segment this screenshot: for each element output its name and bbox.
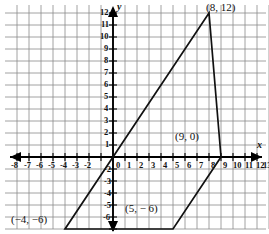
coordinate-plot-svg (0, 0, 269, 234)
y-tick-label-6: 6 (104, 80, 108, 89)
y-tick-label-3: 3 (104, 116, 108, 125)
y-tick-label-7: 7 (104, 68, 108, 77)
x-tick-label--5: -5 (48, 161, 55, 170)
x-tick-label--8: -8 (11, 161, 18, 170)
right-vertex-label: (9, 0) (175, 131, 199, 142)
x-tick-label--6: -6 (36, 161, 43, 170)
y-tick-label-10: 10 (100, 32, 109, 41)
x-tick-label--4: -4 (60, 161, 67, 170)
x-tick-label-4: 4 (163, 161, 167, 170)
x-tick-label-3: 3 (151, 161, 155, 170)
axis-arrowheads (10, 6, 262, 232)
y-tick-label--2: -2 (104, 165, 111, 174)
x-tick-label-10: 10 (233, 161, 242, 170)
bottom-left-vertex-label: (−4, −6) (11, 214, 47, 225)
apex-label: (8, 12) (206, 2, 235, 13)
x-tick-label--2: -2 (84, 161, 91, 170)
y-tick-label-9: 9 (104, 44, 108, 53)
bottom-right-vertex-label: (5, − 6) (125, 203, 158, 214)
x-tick-label-9: 9 (223, 161, 227, 170)
y-tick-label-8: 8 (104, 56, 108, 65)
y-tick-label-12: 12 (100, 8, 109, 17)
coordinate-plane-figure: -8 -7 -6 -5 -4 -3 -2 0 1 2 3 4 5 6 7 8 9… (0, 0, 269, 234)
y-tick-label-5: 5 (104, 92, 108, 101)
x-tick-label-11: 11 (245, 161, 253, 170)
y-tick-label-2: 2 (104, 128, 108, 137)
x-tick-label-1: 1 (127, 161, 131, 170)
y-axis-label: y (117, 2, 121, 12)
grid-lines (5, 5, 269, 229)
axes (10, 8, 262, 231)
y-tick-label-11: 11 (101, 20, 109, 29)
x-tick-label-2: 2 (139, 161, 143, 170)
x-tick-label-8: 8 (211, 161, 215, 170)
x-tick-label-6: 6 (187, 161, 191, 170)
y-tick-label-4: 4 (104, 104, 108, 113)
x-tick-label--3: -3 (72, 161, 79, 170)
y-tick-label--3: -3 (104, 177, 111, 186)
y-tick-label--4: -4 (104, 189, 111, 198)
y-axis-arrow-down (108, 221, 118, 232)
x-axis-label: x (257, 140, 262, 150)
x-tick-label--7: -7 (24, 161, 31, 170)
x-tick-label-5: 5 (175, 161, 179, 170)
y-tick-label--5: -5 (104, 201, 111, 210)
x-tick-label-7: 7 (199, 161, 203, 170)
x-tick-label-13: 13 (263, 161, 269, 170)
x-tick-label-0: 0 (116, 161, 120, 170)
y-tick-label--6: -6 (103, 213, 110, 222)
y-tick-label-1: 1 (105, 140, 109, 149)
